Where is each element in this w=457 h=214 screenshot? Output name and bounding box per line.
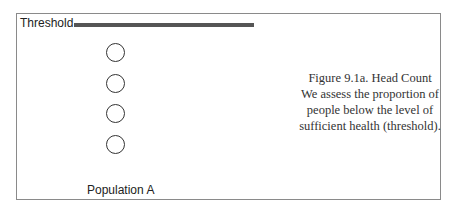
person-circle-icon — [106, 104, 125, 123]
figure-caption: Figure 9.1a. Head Count We assess the pr… — [290, 70, 450, 134]
caption-title: Figure 9.1a. Head Count — [290, 70, 450, 86]
caption-line: We assess the proportion of — [290, 86, 450, 102]
caption-line: people below the level of — [290, 102, 450, 118]
person-circle-icon — [106, 43, 125, 62]
threshold-line — [74, 23, 254, 27]
person-circle-icon — [106, 135, 125, 154]
caption-line: sufficient health (threshold). — [290, 118, 450, 134]
person-circle-icon — [106, 74, 125, 93]
population-label: Population A — [87, 183, 154, 197]
threshold-label: Threshold — [20, 16, 73, 30]
